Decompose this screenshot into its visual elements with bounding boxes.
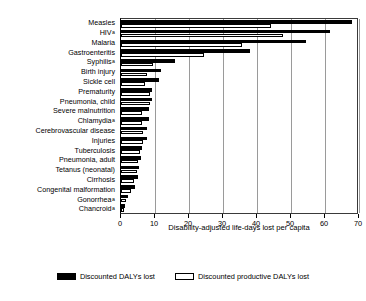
y-axis-label-text: HIV <box>100 29 112 36</box>
legend-swatch-outlined-icon <box>175 273 194 280</box>
legend-item-discounted-dalys-lost: Discounted DALYs lost <box>57 272 155 281</box>
y-axis-label-text: Measles <box>88 19 115 26</box>
y-axis-label: Tuberculosis <box>0 145 118 155</box>
y-axis-label: Gastroenteritis <box>0 47 118 57</box>
y-axis-label-text: Chlamydia <box>78 117 112 124</box>
x-axis-title: Disability-adjusted life-days lost per c… <box>120 223 358 232</box>
x-axis-tick <box>120 214 121 218</box>
bar-discounted-productive-dalys <box>121 24 271 28</box>
bar-discounted-productive-dalys <box>121 43 242 47</box>
legend-label: Discounted DALYs lost <box>80 272 155 281</box>
x-axis-tick <box>358 214 359 218</box>
y-axis-label-text: Birth injury <box>81 68 115 75</box>
bar-row <box>121 116 357 126</box>
y-axis-label-text: Tetanus (neonatal) <box>55 166 115 173</box>
y-axis-label: Chancroida <box>0 204 118 214</box>
y-axis-label: Tetanus (neonatal) <box>0 165 118 175</box>
bar-row <box>121 77 357 87</box>
bar-row <box>121 48 357 58</box>
bar-row <box>121 184 357 194</box>
y-axis-label-text: Cirrhosis <box>87 176 115 183</box>
x-axis-tick <box>154 214 155 218</box>
y-axis-label: Pneumonia, child <box>0 96 118 106</box>
bar-discounted-productive-dalys <box>121 140 143 144</box>
bar-row <box>121 203 357 213</box>
bar-discounted-productive-dalys <box>121 121 142 125</box>
bar-row <box>121 19 357 29</box>
y-axis-label: Gonorrheaa <box>0 194 118 204</box>
bar-row <box>121 145 357 155</box>
bar-row <box>121 58 357 68</box>
plot-area <box>120 18 358 214</box>
bar-discounted-productive-dalys <box>121 150 140 154</box>
y-axis-label-footnote: a <box>112 118 115 123</box>
chart-legend: Discounted DALYs lost Discounted product… <box>0 272 366 281</box>
y-axis-label: Pneumonia, adult <box>0 155 118 165</box>
x-axis-tick <box>188 214 189 218</box>
y-axis-label-text: Cerebrovascular disease <box>35 127 115 134</box>
y-axis-label-text: Pneumonia, adult <box>59 156 115 163</box>
legend-swatch-filled-icon <box>57 273 76 280</box>
bar-row <box>121 135 357 145</box>
y-axis-label-text: Gastroenteritis <box>68 49 115 56</box>
bar-discounted-productive-dalys <box>121 92 150 96</box>
bar-row <box>121 97 357 107</box>
bar-discounted-productive-dalys <box>121 199 126 203</box>
y-axis-label: Measles <box>0 18 118 28</box>
y-axis-label: Cirrhosis <box>0 175 118 185</box>
x-axis-tick <box>256 214 257 218</box>
y-axis-label: Malaria <box>0 38 118 48</box>
y-axis-label-text: Malaria <box>91 39 115 46</box>
bar-discounted-productive-dalys <box>121 160 138 164</box>
legend-label: Discounted productive DALYs lost <box>198 272 309 281</box>
y-axis-label: Birth injury <box>0 67 118 77</box>
bar-discounted-productive-dalys <box>121 73 147 77</box>
x-axis-tick <box>222 214 223 218</box>
y-axis-label-text: Chancroid <box>79 205 112 212</box>
bar-discounted-productive-dalys <box>121 179 134 183</box>
bar-row <box>121 155 357 165</box>
y-axis-label: Severe malnutrition <box>0 106 118 116</box>
y-axis-label: Injuries <box>0 136 118 146</box>
bar-discounted-productive-dalys <box>121 102 150 106</box>
y-axis-label: Cerebrovascular disease <box>0 126 118 136</box>
y-axis-label-text: Gonorrhea <box>77 196 111 203</box>
y-axis-label: Prematurity <box>0 87 118 97</box>
y-axis-label-text: Injuries <box>92 137 115 144</box>
y-axis-label-footnote: a <box>112 59 115 64</box>
bar-row <box>121 38 357 48</box>
y-axis-label-text: Severe malnutrition <box>53 107 115 114</box>
bar-row <box>121 165 357 175</box>
y-axis-label-text: Prematurity <box>78 88 115 95</box>
y-axis-label-footnote: a <box>112 30 115 35</box>
y-axis-label-footnote: a <box>112 206 115 211</box>
bar-discounted-productive-dalys <box>121 63 153 67</box>
bar-rows <box>121 19 357 213</box>
bar-row <box>121 87 357 97</box>
legend-item-discounted-productive-dalys-lost: Discounted productive DALYs lost <box>175 272 309 281</box>
chart-figure: MeaslesHIVaMalariaGastroenteritisSyphili… <box>0 0 366 301</box>
x-axis-tick <box>290 214 291 218</box>
y-axis-label-text: Syphilis <box>87 58 112 65</box>
y-axis-label-text: Tuberculosis <box>75 147 115 154</box>
bar-discounted-productive-dalys <box>121 53 204 57</box>
y-axis-label: Sickle cell <box>0 77 118 87</box>
bar-discounted-productive-dalys <box>121 82 145 86</box>
bar-discounted-productive-dalys <box>121 111 142 115</box>
y-axis-label-text: Sickle cell <box>83 78 115 85</box>
y-axis-label-text: Pneumonia, child <box>60 98 115 105</box>
y-axis-label: Chlamydiaa <box>0 116 118 126</box>
plot-area-wrapper: MeaslesHIVaMalariaGastroenteritisSyphili… <box>0 0 366 265</box>
y-axis-label: HIVa <box>0 28 118 38</box>
y-axis-label-text: Congenital malformation <box>37 186 115 193</box>
bar-discounted-productive-dalys <box>121 189 131 193</box>
bar-row <box>121 194 357 204</box>
bar-discounted-productive-dalys <box>121 34 283 38</box>
y-axis-label: Syphilisa <box>0 57 118 67</box>
bar-row <box>121 126 357 136</box>
y-axis-label: Congenital malformation <box>0 185 118 195</box>
y-axis-category-labels: MeaslesHIVaMalariaGastroenteritisSyphili… <box>0 18 118 214</box>
bar-discounted-productive-dalys <box>121 208 124 212</box>
x-axis-tick <box>324 214 325 218</box>
bar-discounted-productive-dalys <box>121 170 137 174</box>
